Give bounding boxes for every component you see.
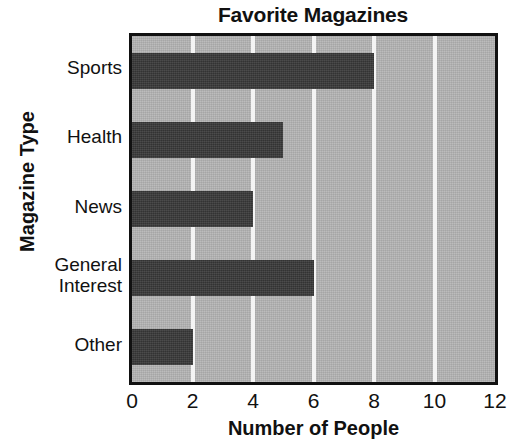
y-axis-tick-label: General Interest bbox=[5, 254, 129, 296]
y-axis-tick-label: Sports bbox=[5, 57, 129, 78]
x-axis-tick-label: 10 bbox=[412, 388, 458, 414]
bar bbox=[132, 260, 314, 296]
x-axis-tick-label: 2 bbox=[170, 388, 216, 414]
bar bbox=[132, 53, 374, 89]
x-axis-tick-label: 0 bbox=[109, 388, 155, 414]
y-axis-tick-label: News bbox=[5, 196, 129, 217]
x-axis-tick-label: 8 bbox=[351, 388, 397, 414]
x-axis-tick-label: 12 bbox=[472, 388, 517, 414]
bar bbox=[132, 122, 283, 158]
chart-title: Favorite Magazines bbox=[128, 1, 498, 29]
bar bbox=[132, 329, 193, 365]
y-axis-tick-label: Other bbox=[5, 334, 129, 355]
gridline-10 bbox=[433, 36, 437, 382]
x-axis-tick-labels: 024681012 bbox=[129, 388, 498, 416]
x-axis-tick-label: 4 bbox=[230, 388, 276, 414]
x-axis-tick-label: 6 bbox=[291, 388, 337, 414]
y-axis-tick-label: Health bbox=[5, 126, 129, 147]
x-axis-title: Number of People bbox=[129, 416, 498, 440]
y-axis-tick-labels: SportsHealthNewsGeneral InterestOther bbox=[0, 33, 129, 385]
bar-chart: Favorite Magazines Magazine Type SportsH… bbox=[0, 0, 517, 443]
plot-area bbox=[129, 33, 498, 385]
bar bbox=[132, 191, 253, 227]
